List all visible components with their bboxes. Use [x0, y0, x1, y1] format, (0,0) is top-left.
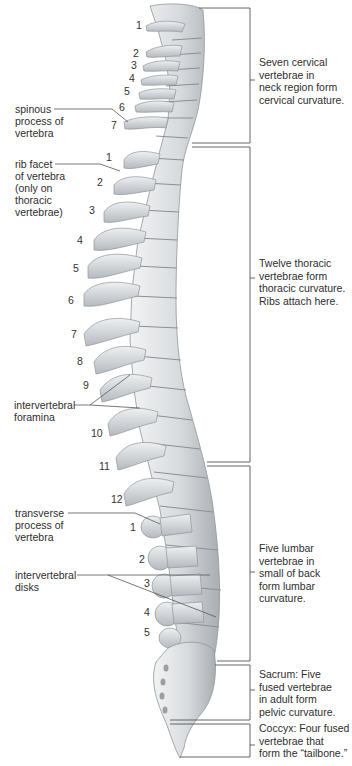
label-intervertebral-disks: intervertebral disks — [15, 569, 76, 593]
cervical-number: 5 — [124, 85, 130, 97]
cervical-number: 4 — [129, 72, 135, 84]
region-cervical: Seven cervical vertebrae in neck region … — [259, 56, 351, 106]
cervical-number: 1 — [136, 19, 142, 31]
cervical-number: 2 — [133, 47, 139, 59]
thoracic-number: 6 — [68, 294, 74, 306]
vertebral-column-diagram: spinous process of vertebra rib facet of… — [0, 0, 352, 766]
thoracic-number: 1 — [106, 151, 112, 163]
lumbar-number: 4 — [144, 606, 150, 618]
thoracic-number: 5 — [73, 262, 79, 274]
label-transverse-process: transverse process of vertebra — [15, 507, 64, 543]
thoracic-number: 9 — [83, 379, 89, 391]
label-rib-facet: rib facet of vertebra (only on thoracic … — [15, 158, 65, 218]
thoracic-number: 11 — [99, 460, 110, 472]
cervical-number: 6 — [119, 101, 125, 113]
region-sacrum: Sacrum: Five fused vertebrae in adult fo… — [259, 668, 351, 718]
region-thoracic: Twelve thoracic vertebrae form thoracic … — [259, 257, 351, 307]
sacrum-coccyx — [154, 642, 216, 758]
lumbar-number: 3 — [144, 577, 150, 589]
lumbar-number: 5 — [144, 626, 150, 638]
lumbar-number: 1 — [130, 521, 136, 533]
lumbar-number: 2 — [139, 553, 145, 565]
region-coccyx: Coccyx: Four fused vertebrae that form t… — [259, 722, 351, 760]
thoracic-number: 12 — [111, 493, 123, 505]
thoracic-number: 3 — [89, 204, 95, 216]
thoracic-number: 7 — [71, 328, 77, 340]
thoracic-number: 4 — [77, 234, 83, 246]
thoracic-number: 10 — [91, 427, 103, 439]
thoracic-number: 2 — [97, 176, 103, 188]
cervical-number: 7 — [111, 119, 117, 131]
label-spinous-process: spinous process of vertebra — [15, 103, 63, 139]
cervical-number: 3 — [131, 59, 137, 71]
label-intervertebral-foramina: intervertebral foramina — [14, 399, 75, 423]
thoracic-number: 8 — [77, 355, 83, 367]
region-lumbar: Five lumbar vertebrae in small of back f… — [259, 542, 351, 605]
